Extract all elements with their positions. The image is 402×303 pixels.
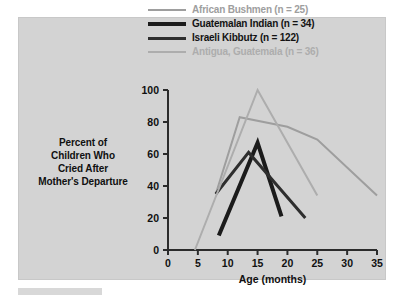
x-tick-label: 0: [165, 257, 171, 269]
data-series-group: [195, 90, 377, 250]
plot-area: 020406080100 05101520253035 Age (months): [0, 0, 402, 303]
y-axis-ticks: 020406080100: [141, 84, 168, 256]
chart-svg: 020406080100 05101520253035 Age (months): [0, 0, 402, 303]
x-tick-label: 30: [341, 257, 353, 269]
x-tick-label: 20: [282, 257, 294, 269]
x-axis-title: Age (months): [239, 273, 307, 285]
x-tick-label: 25: [311, 257, 323, 269]
x-tick-label: 15: [252, 257, 264, 269]
y-tick-label: 60: [147, 148, 159, 160]
x-tick-label: 10: [222, 257, 234, 269]
y-tick-label: 20: [147, 212, 159, 224]
y-tick-label: 100: [141, 84, 159, 96]
y-tick-label: 80: [147, 116, 159, 128]
chart-screenshot: African Bushmen (n = 25) Guatemalan Indi…: [0, 0, 402, 303]
y-tick-label: 0: [153, 244, 159, 256]
series-line: [195, 90, 317, 250]
x-tick-label: 5: [195, 257, 201, 269]
x-tick-label: 35: [371, 257, 383, 269]
x-axis-ticks: 05101520253035: [165, 250, 383, 269]
axis-lines: [168, 90, 377, 250]
y-tick-label: 40: [147, 180, 159, 192]
footer-bar: [18, 288, 102, 295]
